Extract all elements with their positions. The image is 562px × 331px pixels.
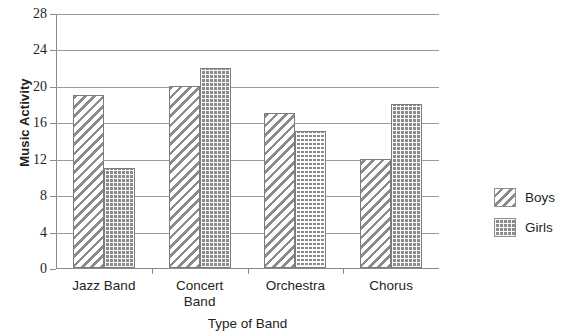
y-tick-mark bbox=[50, 87, 56, 88]
y-tick-label: 8 bbox=[40, 188, 47, 204]
y-tick-label: 20 bbox=[33, 79, 47, 95]
plot-area: 0481216202428 Jazz BandConcert BandOrche… bbox=[56, 14, 439, 269]
x-axis-title: Type of Band bbox=[56, 316, 439, 331]
bar-girls-1 bbox=[200, 68, 231, 268]
legend-swatch-icon bbox=[494, 218, 516, 237]
y-tick-label: 4 bbox=[40, 225, 47, 241]
legend: BoysGirls bbox=[494, 186, 555, 246]
y-tick-label: 16 bbox=[33, 115, 47, 131]
gridline bbox=[56, 50, 439, 51]
y-tick-mark bbox=[50, 50, 56, 51]
x-tick-mark bbox=[152, 269, 153, 274]
bar-girls-3 bbox=[391, 104, 422, 268]
y-axis-line bbox=[56, 14, 57, 269]
bar-boys-3 bbox=[360, 159, 391, 268]
y-tick-mark bbox=[50, 233, 56, 234]
y-axis-title: Music Activity bbox=[17, 53, 32, 193]
bar-boys-1 bbox=[169, 86, 200, 268]
y-tick-label: 12 bbox=[33, 152, 47, 168]
bar-girls-2 bbox=[295, 131, 326, 268]
x-category-label: Chorus bbox=[369, 278, 413, 294]
x-tick-mark bbox=[343, 269, 344, 274]
bar-boys-2 bbox=[264, 113, 295, 268]
gridline bbox=[56, 123, 439, 124]
y-tick-mark bbox=[50, 14, 56, 15]
legend-swatch-icon bbox=[494, 188, 516, 207]
gridline bbox=[56, 14, 439, 15]
gridline bbox=[56, 87, 439, 88]
legend-label: Girls bbox=[525, 220, 553, 235]
bar-girls-0 bbox=[104, 168, 135, 268]
legend-label: Boys bbox=[525, 190, 555, 205]
legend-item-girls[interactable]: Girls bbox=[494, 216, 555, 238]
y-tick-label: 28 bbox=[33, 6, 47, 22]
y-tick-mark bbox=[50, 160, 56, 161]
x-category-label: Concert Band bbox=[176, 278, 223, 310]
x-tick-mark bbox=[248, 269, 249, 274]
x-category-label: Orchestra bbox=[266, 278, 325, 294]
y-tick-mark bbox=[50, 269, 56, 270]
bar-boys-0 bbox=[73, 95, 104, 268]
y-tick-mark bbox=[50, 196, 56, 197]
legend-item-boys[interactable]: Boys bbox=[494, 186, 555, 208]
y-tick-label: 24 bbox=[33, 42, 47, 58]
y-tick-label: 0 bbox=[40, 261, 47, 277]
y-tick-mark bbox=[50, 123, 56, 124]
x-category-label: Jazz Band bbox=[72, 278, 135, 294]
